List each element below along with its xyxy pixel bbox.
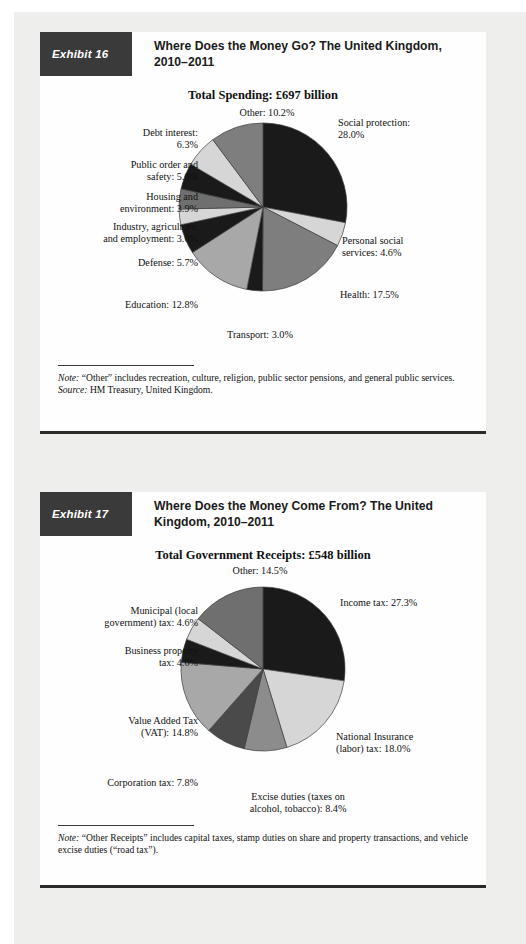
pie-slice-label: Health: 17.5% xyxy=(340,289,460,301)
exhibit-16-note-text: “Other” includes recreation, culture, re… xyxy=(79,372,454,383)
exhibit-17-tag: Exhibit 17 xyxy=(40,492,132,536)
pie-slice-label: Education: 12.8% xyxy=(80,299,198,311)
exhibit-17-note-rule xyxy=(58,825,194,826)
exhibit-17-header: Exhibit 17 Where Does the Money Come Fro… xyxy=(40,492,486,544)
pie-slice xyxy=(263,587,345,681)
exhibit-16-note-rule xyxy=(58,365,194,366)
exhibit-17-chart-area: Other: 14.5%Municipal (local government)… xyxy=(40,563,486,825)
pie-slice-label: Housing and environment: 3.9% xyxy=(58,191,198,216)
pie-slice-label: Public order and safety: 5.0% xyxy=(70,159,198,184)
pie-slice-label: Business property tax: 4.6% xyxy=(70,645,198,670)
pie-slice-label: National Insurance (labor) tax: 18.0% xyxy=(336,731,468,756)
exhibit-16-header: Exhibit 16 Where Does the Money Go? The … xyxy=(40,32,486,84)
exhibit-16-card: Exhibit 16 Where Does the Money Go? The … xyxy=(40,32,486,434)
pie-slice-label: Excise duties (taxes on alcohol, tobacco… xyxy=(218,791,378,816)
exhibit-17-pie xyxy=(179,585,347,753)
pie-slice-label: Social protection: 28.0% xyxy=(338,117,470,142)
exhibit-17-note-text: “Other Receipts” includes capital taxes,… xyxy=(58,832,468,855)
pie-slice-label: Debt interest: 6.3% xyxy=(90,127,198,152)
exhibit-16-chart-title: Total Spending: £697 billion xyxy=(40,88,486,103)
exhibit-16-chart-area: Other: 10.2%Debt interest: 6.3%Public or… xyxy=(40,103,486,365)
pie-slice-label: Corporation tax: 7.8% xyxy=(64,777,198,789)
pie-slice-label: Municipal (local government) tax: 4.6% xyxy=(46,605,198,630)
exhibit-17-title: Where Does the Money Come From? The Unit… xyxy=(132,492,486,530)
exhibit-16-source-label: Source: xyxy=(58,384,87,395)
pie-slice-label: Industry, agriculture, and employment: 3… xyxy=(46,221,198,246)
exhibit-16-source-text: HM Treasury, United Kingdom. xyxy=(87,384,212,395)
pie-slice-label: Other: 14.5% xyxy=(200,565,320,577)
exhibit-17-chart-title: Total Government Receipts: £548 billion xyxy=(40,548,486,563)
pie-slice xyxy=(263,123,347,223)
exhibit-16-pie xyxy=(177,121,349,293)
pie-slice-label: Income tax: 27.3% xyxy=(340,597,470,609)
pie-slice-label: Personal social services: 4.6% xyxy=(342,235,474,260)
pie-slice-label: Transport: 3.0% xyxy=(200,329,320,341)
exhibit-17-notes: Note: “Other Receipts” includes capital … xyxy=(40,832,486,866)
exhibit-17-note-label: Note: xyxy=(58,832,79,843)
pie-slice-label: Value Added Tax (VAT): 14.8% xyxy=(74,715,198,740)
pie-slice-label: Other: 10.2% xyxy=(212,107,322,119)
exhibit-16-note-label: Note: xyxy=(58,372,79,383)
exhibit-16-title: Where Does the Money Go? The United King… xyxy=(132,32,486,70)
pie-slice-label: Defense: 5.7% xyxy=(86,257,198,269)
exhibit-16-tag: Exhibit 16 xyxy=(40,32,132,76)
exhibit-16-notes: Note: “Other” includes recreation, cultu… xyxy=(40,372,486,406)
exhibit-17-card: Exhibit 17 Where Does the Money Come Fro… xyxy=(40,492,486,888)
